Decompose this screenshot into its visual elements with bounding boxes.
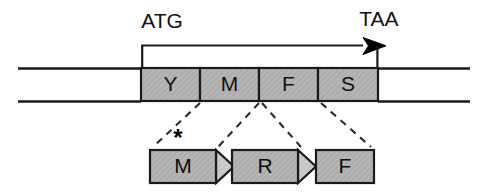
codon-box-group: Y M F S	[141, 68, 378, 101]
connector-3	[262, 103, 301, 147]
peptide-shape-f: F	[316, 150, 374, 183]
frameshift-asterisk-label: *	[173, 124, 183, 151]
codon-box-m: M	[200, 68, 259, 101]
codon-box-s-label: S	[341, 72, 355, 95]
codon-box-y-label: Y	[163, 72, 177, 95]
gene-diagram-figure: ATG TAA Y M F S	[0, 0, 486, 196]
stop-codon-label: TAA	[359, 7, 398, 30]
peptide-shape-m: M	[150, 150, 234, 183]
gene-figure-canvas: ATG TAA Y M F S	[0, 0, 486, 196]
start-codon-label: ATG	[141, 9, 183, 32]
peptide-shape-group: M R F	[150, 150, 374, 183]
connector-4	[321, 103, 371, 147]
open-reading-frame-arrow	[142, 38, 386, 69]
connector-group	[153, 103, 371, 147]
peptide-shape-r-label: R	[257, 154, 272, 177]
peptide-shape-m-label: M	[174, 154, 192, 177]
peptide-shape-f-label: F	[339, 154, 352, 177]
codon-box-m-label: M	[221, 72, 239, 95]
codon-box-f: F	[259, 68, 318, 101]
peptide-shape-r: R	[232, 150, 316, 183]
codon-box-s: S	[318, 68, 378, 101]
chromosome-left-flank	[18, 69, 141, 102]
connector-2	[218, 103, 259, 147]
codon-box-f-label: F	[282, 72, 295, 95]
peptide-shape-r-arrowhead	[298, 150, 316, 183]
codon-box-y: Y	[141, 68, 200, 101]
chromosome-right-flank	[378, 69, 470, 102]
